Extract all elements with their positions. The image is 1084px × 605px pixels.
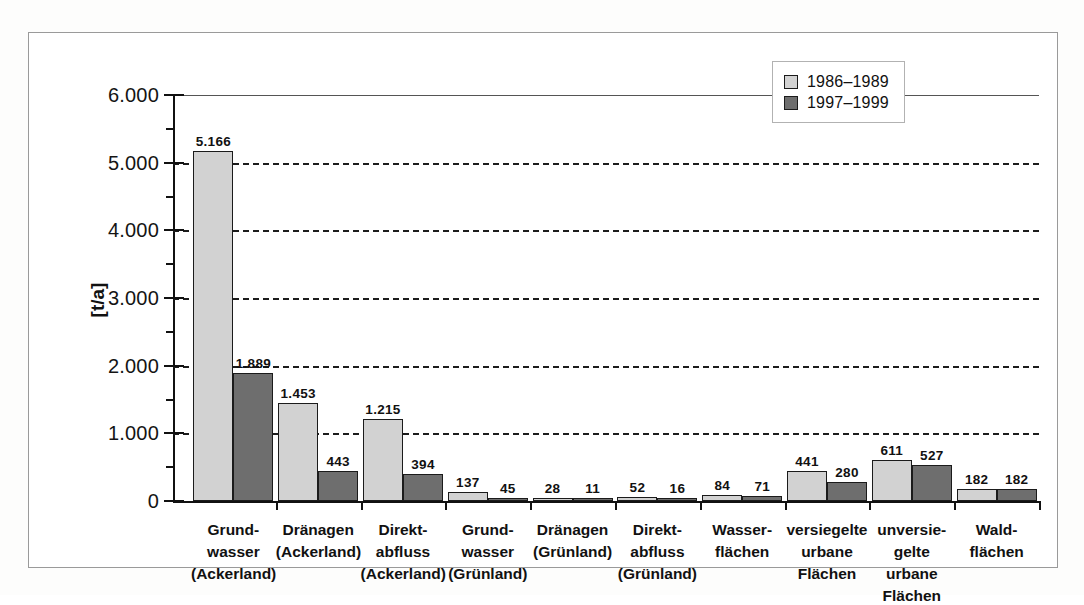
y-axis-tick bbox=[164, 297, 184, 299]
category-label: Direkt- abfluss (Grünland) bbox=[615, 519, 700, 585]
bar bbox=[278, 403, 318, 501]
x-axis-tick bbox=[700, 501, 702, 510]
bar bbox=[872, 460, 912, 501]
bar bbox=[957, 489, 997, 501]
y-axis-tick bbox=[164, 94, 184, 96]
bar-value-label: 441 bbox=[795, 454, 818, 469]
y-axis-tick-label: 5.000 bbox=[108, 151, 159, 174]
y-axis-tick bbox=[164, 229, 184, 231]
gridline bbox=[173, 298, 1039, 300]
category-label: Dränagen (Ackerland) bbox=[276, 519, 361, 563]
bar bbox=[533, 498, 573, 501]
bar bbox=[233, 373, 273, 501]
bar-value-label: 1.889 bbox=[236, 356, 271, 371]
bar-value-label: 1.215 bbox=[365, 402, 400, 417]
bar bbox=[997, 489, 1037, 501]
gridline bbox=[173, 366, 1039, 368]
plot-area: 01.0002.0003.0004.0005.0006.000 5.1661.8… bbox=[173, 95, 1039, 503]
category-label: unversie- gelte urbane Flächen bbox=[869, 519, 954, 605]
x-axis-tick bbox=[361, 501, 363, 510]
gridline bbox=[173, 230, 1039, 232]
category-label: Grund- wasser (Grünland) bbox=[445, 519, 530, 585]
bar-value-label: 11 bbox=[585, 481, 600, 496]
bar-value-label: 45 bbox=[500, 481, 516, 496]
x-axis-tick bbox=[276, 501, 278, 510]
y-axis-minor-tick bbox=[166, 196, 175, 198]
y-axis-title: [t/a] bbox=[87, 283, 109, 318]
x-axis-tick bbox=[869, 501, 871, 510]
category-label: Grund- wasser (Ackerland) bbox=[191, 519, 276, 585]
category-label: Wasser- flächen bbox=[700, 519, 785, 563]
bar-value-label: 28 bbox=[545, 481, 561, 496]
x-axis-tick bbox=[1039, 501, 1041, 510]
bar-value-label: 394 bbox=[411, 457, 434, 472]
bar-value-label: 611 bbox=[880, 443, 903, 458]
plot-top-rule bbox=[173, 95, 1039, 96]
legend-entry-label: 1997–1999 bbox=[807, 94, 889, 112]
bar bbox=[488, 498, 528, 501]
y-axis-tick bbox=[164, 365, 184, 367]
bar-value-label: 1.453 bbox=[281, 386, 316, 401]
bar bbox=[787, 471, 827, 501]
bar bbox=[573, 498, 613, 501]
legend-entry-label: 1986–1989 bbox=[807, 73, 889, 91]
bar-value-label: 443 bbox=[326, 454, 349, 469]
y-axis-tick-label: 6.000 bbox=[108, 84, 159, 107]
legend-entry: 1997–1999 bbox=[784, 92, 894, 113]
y-axis-minor-tick bbox=[166, 331, 175, 333]
bar bbox=[742, 496, 782, 501]
y-axis-tick bbox=[164, 500, 184, 502]
category-label: Dränagen (Grünland) bbox=[530, 519, 615, 563]
bar bbox=[318, 471, 358, 501]
x-axis-tick bbox=[445, 501, 447, 510]
bar bbox=[193, 151, 233, 501]
legend-entry: 1986–1989 bbox=[784, 71, 894, 92]
category-label: Direkt- abfluss (Ackerland) bbox=[361, 519, 446, 585]
y-axis-tick-label: 0 bbox=[148, 490, 159, 513]
gridline bbox=[173, 163, 1039, 165]
bar-value-label: 527 bbox=[920, 448, 943, 463]
x-axis-tick bbox=[954, 501, 956, 510]
y-axis-tick-label: 2.000 bbox=[108, 354, 159, 377]
y-axis-tick bbox=[164, 432, 184, 434]
y-axis-tick-label: 1.000 bbox=[108, 422, 159, 445]
bar-value-label: 182 bbox=[1005, 472, 1028, 487]
y-axis-minor-tick bbox=[166, 399, 175, 401]
bar bbox=[363, 419, 403, 501]
x-axis-tick bbox=[530, 501, 532, 510]
chart-frame: [t/a] 01.0002.0003.0004.0005.0006.000 5.… bbox=[28, 32, 1058, 568]
bar-value-label: 5.166 bbox=[196, 134, 231, 149]
light-gray-swatch bbox=[784, 75, 798, 89]
bar bbox=[448, 492, 488, 501]
y-axis-tick-label: 3.000 bbox=[108, 287, 159, 310]
bar-value-label: 280 bbox=[835, 465, 858, 480]
bar-value-label: 52 bbox=[630, 480, 646, 495]
bar-value-label: 16 bbox=[670, 481, 686, 496]
dark-gray-swatch bbox=[784, 96, 798, 110]
bar-value-label: 71 bbox=[754, 479, 770, 494]
bar bbox=[912, 465, 952, 501]
bar bbox=[827, 482, 867, 501]
bar-value-label: 182 bbox=[965, 472, 988, 487]
category-label: Wald- flächen bbox=[954, 519, 1039, 563]
y-axis-tick-label: 4.000 bbox=[108, 219, 159, 242]
y-axis-tick bbox=[164, 162, 184, 164]
bar-value-label: 137 bbox=[456, 475, 479, 490]
x-axis-line bbox=[173, 501, 1039, 503]
y-axis-minor-tick bbox=[166, 263, 175, 265]
y-axis-minor-tick bbox=[166, 128, 175, 130]
category-label: versiegelte urbane Flächen bbox=[785, 519, 870, 585]
chart-legend: 1986–1989 1997–1999 bbox=[772, 61, 905, 123]
bar bbox=[657, 498, 697, 501]
x-axis-tick bbox=[615, 501, 617, 510]
bar bbox=[702, 495, 742, 501]
x-axis-tick bbox=[785, 501, 787, 510]
bar bbox=[617, 497, 657, 501]
bar-value-label: 84 bbox=[714, 478, 730, 493]
y-axis-minor-tick bbox=[166, 466, 175, 468]
bar bbox=[403, 474, 443, 501]
